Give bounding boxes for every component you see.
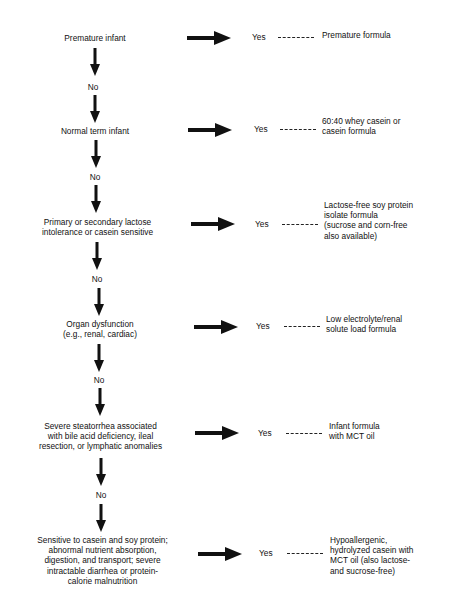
condition-normal-term-infant: Normal term infant	[40, 126, 150, 136]
down-arrow-icon	[90, 95, 100, 123]
right-arrow-icon	[198, 547, 242, 561]
right-arrow-icon	[194, 320, 238, 334]
condition-casein-soy-sensitive: Sensitive to casein and soy protein; abn…	[10, 535, 195, 586]
down-arrow-icon	[96, 504, 106, 532]
yes-label: Yes	[258, 428, 272, 438]
result-hypoallergenic-formula: Hypoallergenic, hydrolyzed casein with M…	[330, 535, 413, 576]
right-arrow-icon	[187, 31, 231, 45]
down-arrow-icon	[96, 458, 106, 486]
dashed-connector	[278, 37, 314, 38]
result-mct-oil-formula: Infant formula with MCT oil	[329, 421, 380, 441]
yes-label: Yes	[255, 219, 269, 229]
down-arrow-icon	[91, 185, 101, 213]
down-arrow-icon	[94, 344, 104, 372]
down-arrow-icon	[92, 242, 102, 270]
down-arrow-icon	[90, 48, 100, 76]
yes-label: Yes	[256, 321, 270, 331]
right-arrow-icon	[188, 123, 232, 137]
no-label: No	[86, 375, 112, 385]
yes-label: Yes	[254, 124, 268, 134]
dashed-connector	[284, 326, 320, 327]
result-low-electrolyte-formula: Low electrolyte/renal solute load formul…	[326, 314, 402, 334]
result-premature-formula: Premature formula	[322, 30, 391, 40]
right-arrow-icon	[195, 426, 239, 440]
dashed-connector	[282, 224, 318, 225]
no-label: No	[84, 274, 110, 284]
condition-severe-steatorrhea: Severe steatorrhea associated with bile …	[18, 421, 183, 452]
yes-label: Yes	[252, 32, 266, 42]
yes-label: Yes	[259, 548, 273, 558]
dashed-connector	[287, 553, 323, 554]
condition-premature-infant: Premature infant	[40, 33, 150, 43]
dashed-connector	[286, 433, 322, 434]
down-arrow-icon	[94, 288, 104, 316]
condition-lactose-intolerance: Primary or secondary lactose intolerance…	[20, 217, 175, 237]
down-arrow-icon	[91, 140, 101, 168]
result-whey-casein-formula: 60:40 whey casein or casein formula	[322, 116, 400, 136]
result-soy-protein-formula: Lactose-free soy protein isolate formula…	[324, 200, 413, 241]
condition-organ-dysfunction: Organ dysfunction (e.g., renal, cardiac)	[40, 319, 160, 339]
down-arrow-icon	[95, 388, 105, 416]
no-label: No	[88, 490, 114, 500]
no-label: No	[82, 172, 108, 182]
dashed-connector	[280, 129, 316, 130]
right-arrow-icon	[191, 217, 235, 231]
no-label: No	[80, 82, 106, 92]
